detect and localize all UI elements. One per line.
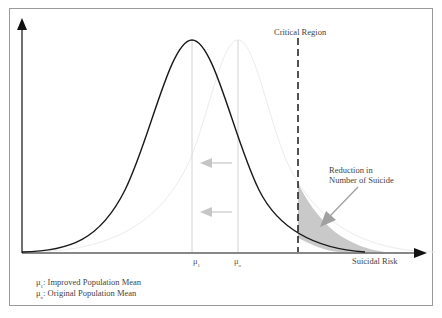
legend-item-original: μo: Original Population Mean: [36, 289, 141, 300]
original-population-curve: [30, 40, 436, 252]
annotation-arrow: [320, 187, 358, 227]
annotation-line-2: Number of Suicide: [329, 176, 394, 186]
improved-mean-marker: μ1: [193, 256, 200, 268]
critical-region-label: Critical Region: [274, 28, 326, 38]
annotation-label: Reduction in Number of Suicide: [329, 166, 394, 186]
original-mean-marker: μo: [234, 256, 241, 268]
shift-arrow-upper: [200, 158, 232, 168]
legend: μ1: Improved Population Mean μo: Origina…: [36, 278, 141, 301]
y-axis-arrowhead: [17, 18, 27, 30]
normal-distribution-diagram: [0, 0, 442, 318]
x-axis-arrowhead: [414, 248, 427, 258]
shift-arrow-lower: [200, 207, 232, 217]
x-axis-label: Suicidal Risk: [352, 257, 398, 267]
